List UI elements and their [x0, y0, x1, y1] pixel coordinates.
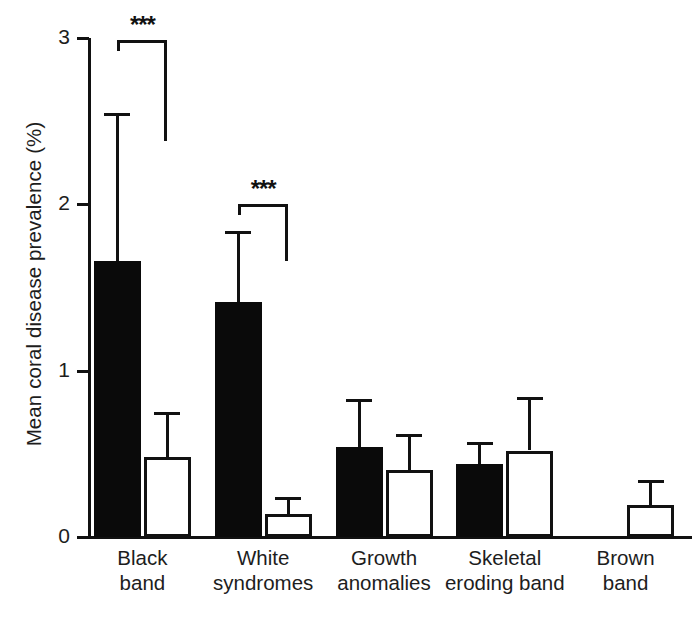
- error-bar-cap: [638, 480, 664, 483]
- significance-stars: ***: [107, 13, 177, 37]
- x-label-line: Growth: [324, 545, 445, 570]
- significance-bracket-right-arm: [285, 204, 288, 261]
- x-label-line: band: [82, 570, 203, 595]
- error-bar-stem: [237, 231, 240, 303]
- error-bar-cap: [517, 397, 543, 400]
- x-label-line: White: [203, 545, 324, 570]
- plot-area: ******: [88, 38, 692, 537]
- y-tick-label-1: 1: [38, 359, 70, 380]
- bar-brown-band-open: [627, 505, 674, 537]
- significance-bracket-top: [117, 40, 167, 43]
- error-bar-cap: [467, 442, 493, 445]
- bar-skeletal-eroding-band-open: [506, 451, 553, 537]
- error-bar-stem: [478, 442, 481, 464]
- x-label-line: eroding band: [444, 570, 565, 595]
- bar-black-band-open: [144, 457, 191, 537]
- error-bar-stem: [166, 412, 169, 457]
- y-tick-label-0: 0: [38, 525, 70, 546]
- error-bar-stem: [528, 397, 531, 450]
- x-label-brown-band: Brownband: [565, 545, 686, 595]
- error-bar-stem: [358, 399, 361, 447]
- x-label-line: anomalies: [324, 570, 445, 595]
- error-bar-cap: [225, 231, 251, 234]
- x-label-black-band: Blackband: [82, 545, 203, 595]
- error-bar-stem: [649, 480, 652, 505]
- error-bar-stem: [116, 113, 119, 261]
- x-label-line: syndromes: [203, 570, 324, 595]
- bar-white-syndromes-open: [265, 514, 312, 537]
- bar-black-band-filled: [94, 261, 141, 537]
- y-tick-label-2: 2: [38, 192, 70, 213]
- y-axis-title: Mean coral disease prevalence (%): [22, 14, 46, 554]
- error-bar-cap: [396, 434, 422, 437]
- x-label-white-syndromes: Whitesyndromes: [203, 545, 324, 595]
- bar-skeletal-eroding-band-filled: [456, 464, 503, 537]
- x-label-line: Black: [82, 545, 203, 570]
- error-bar-cap: [154, 412, 180, 415]
- significance-bracket-left-arm: [238, 204, 241, 215]
- error-bar-cap: [346, 399, 372, 402]
- significance-bracket-left-arm: [117, 40, 120, 51]
- x-label-line: Brown: [565, 545, 686, 570]
- bar-growth-anomalies-open: [386, 470, 433, 537]
- significance-stars: ***: [228, 177, 298, 201]
- y-tick-label-3: 3: [38, 26, 70, 47]
- x-label-growth-anomalies: Growthanomalies: [324, 545, 445, 595]
- x-label-line: Skeletal: [444, 545, 565, 570]
- bar-white-syndromes-filled: [215, 302, 262, 537]
- coral-disease-bar-chart: Mean coral disease prevalence (%) 0123 *…: [0, 0, 697, 622]
- significance-bracket-top: [238, 204, 288, 207]
- x-label-line: band: [565, 570, 686, 595]
- significance-bracket-right-arm: [164, 40, 167, 141]
- error-bar-cap: [104, 113, 130, 116]
- error-bar-cap: [275, 497, 301, 500]
- error-bar-stem: [408, 434, 411, 471]
- bar-growth-anomalies-filled: [336, 447, 383, 537]
- x-label-skeletal-eroding-band: Skeletaleroding band: [444, 545, 565, 595]
